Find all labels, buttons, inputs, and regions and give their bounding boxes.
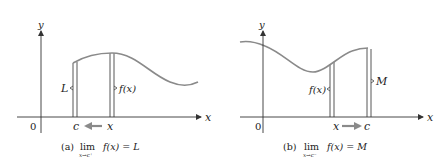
panel-b-origin-label: 0 xyxy=(255,121,261,132)
panel-a-caption-sub: x→c⁺ xyxy=(79,152,93,158)
panel-a-y-label: y xyxy=(37,19,44,30)
panel-a-fx-label: f(x) xyxy=(118,83,136,94)
panel-b-caption-lim: lim xyxy=(304,141,319,152)
one-sided-limits-figure: y x 0 L f(x) c x (a) lim x→c⁺ f(x) = L xyxy=(0,0,445,168)
panel-a-caption-tag: (a) xyxy=(61,141,74,152)
panel-b-fx-label: f(x) xyxy=(308,84,326,95)
panel-b-caption-expr: f(x) = M xyxy=(326,141,367,152)
panel-a-c-label: c xyxy=(73,120,79,133)
panel-b-M-label: M xyxy=(375,75,388,88)
panel-b-x-point-label: x xyxy=(333,120,340,133)
panel-a: y x 0 L f(x) c x (a) lim x→c⁺ f(x) = L xyxy=(17,19,212,158)
panel-b-caption: (b) lim x→c⁻ f(x) = M xyxy=(283,141,367,158)
panel-a-origin-label: 0 xyxy=(30,121,36,132)
panel-a-x-axis-label: x xyxy=(205,111,212,124)
panel-a-L-label: L xyxy=(60,82,68,95)
panel-b-c-label: c xyxy=(364,120,370,133)
panel-a-strips xyxy=(73,53,114,117)
panel-a-curve xyxy=(73,53,198,85)
panel-b-caption-tag: (b) xyxy=(283,141,297,152)
panel-b-caption-sub: x→c⁻ xyxy=(303,152,317,158)
panel-b-curve xyxy=(240,41,368,72)
panel-b-strips xyxy=(330,48,371,117)
panel-a-x-point-label: x xyxy=(107,120,114,133)
panel-a-caption-expr: f(x) = L xyxy=(102,141,140,152)
panel-a-caption-lim: lim xyxy=(80,141,95,152)
panel-b-M-brace xyxy=(371,79,374,83)
panel-b-y-label: y xyxy=(258,19,265,30)
panel-a-caption: (a) lim x→c⁺ f(x) = L xyxy=(61,141,140,158)
panel-b: y x 0 f(x) M x c (b) lim x→c⁻ f(x) = M xyxy=(240,19,434,158)
panel-b-x-axis-label: x xyxy=(427,111,434,124)
